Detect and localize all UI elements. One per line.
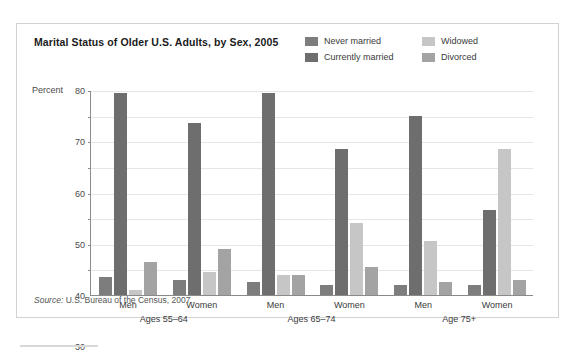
x-axis-label-men: Men	[386, 300, 460, 310]
age-group-label: Ages 55–64	[90, 314, 238, 324]
y-axis-tick-label: 70	[75, 137, 85, 147]
bar-never-married	[320, 285, 333, 295]
bars	[239, 91, 313, 295]
bar-never-married	[394, 285, 407, 295]
bar-divorced	[218, 249, 231, 295]
plot-canvas: 1020304050607080 MenWomenMenWomenMenWome…	[90, 91, 533, 296]
legend-item-currently-married: Currently married	[305, 52, 422, 62]
legend-item-label: Divorced	[441, 52, 477, 62]
age-group-label: Ages 65–74	[238, 314, 386, 324]
y-axis-tick-label: 30	[75, 342, 85, 352]
bar-currently-married	[114, 93, 127, 295]
y-axis-tick-label: 80	[75, 86, 85, 96]
bar-divorced	[144, 262, 157, 295]
bar-divorced	[365, 267, 378, 295]
bar-group-ages-55-64-women: Women	[165, 91, 239, 295]
bar-currently-married	[262, 93, 275, 295]
bars	[165, 91, 239, 295]
chart-figure: Marital Status of Older U.S. Adults, by …	[16, 23, 559, 318]
legend-swatch-icon	[422, 37, 435, 46]
plot-area: 1020304050607080 MenWomenMenWomenMenWome…	[90, 91, 533, 296]
bar-widowed	[498, 149, 511, 295]
chart-legend: Never married Widowed Currently married …	[305, 33, 550, 65]
bar-group-ages-65-74-men: Men	[239, 91, 313, 295]
source-prefix: Source:	[34, 295, 63, 305]
bar-divorced	[292, 275, 305, 296]
source-text: U.S. Bureau of the Census, 2007.	[63, 295, 192, 305]
bar-widowed	[203, 272, 216, 295]
legend-swatch-icon	[305, 53, 318, 62]
x-axis-label-women: Women	[313, 300, 387, 310]
bar-currently-married	[335, 149, 348, 295]
x-axis-label-men: Men	[239, 300, 313, 310]
legend-item-never-married: Never married	[305, 36, 422, 46]
age-group-label: Age 75+	[385, 314, 533, 324]
bar-never-married	[99, 277, 112, 295]
bar-never-married	[247, 282, 260, 295]
y-axis-title: Percent	[32, 85, 63, 95]
legend-swatch-icon	[422, 53, 435, 62]
x-axis-label-women: Women	[460, 300, 534, 310]
bars	[313, 91, 387, 295]
bottom-rule-divider	[20, 345, 98, 347]
source-note: Source: U.S. Bureau of the Census, 2007.	[34, 295, 193, 305]
bar-currently-married	[409, 116, 422, 295]
chart-title: Marital Status of Older U.S. Adults, by …	[34, 36, 278, 48]
bars	[91, 91, 165, 295]
bars	[460, 91, 534, 295]
legend-item-divorced: Divorced	[422, 52, 532, 62]
bar-currently-married	[188, 123, 201, 295]
legend-item-label: Currently married	[324, 52, 394, 62]
bar-widowed	[424, 241, 437, 295]
bar-group-age-75--women: Women	[460, 91, 534, 295]
bar-divorced	[513, 280, 526, 295]
bar-divorced	[439, 282, 452, 295]
bar-never-married	[468, 285, 481, 295]
bars	[386, 91, 460, 295]
bar-widowed	[350, 223, 363, 295]
bar-never-married	[173, 280, 186, 295]
y-axis-tick-label: 50	[75, 240, 85, 250]
y-axis-tick-label: 60	[75, 189, 85, 199]
legend-item-label: Never married	[324, 36, 381, 46]
bar-currently-married	[483, 210, 496, 295]
legend-item-widowed: Widowed	[422, 36, 532, 46]
legend-swatch-icon	[305, 37, 318, 46]
bar-widowed	[277, 275, 290, 296]
bar-group-ages-55-64-men: Men	[91, 91, 165, 295]
bar-group-age-75--men: Men	[386, 91, 460, 295]
bar-group-ages-65-74-women: Women	[313, 91, 387, 295]
legend-item-label: Widowed	[441, 36, 478, 46]
